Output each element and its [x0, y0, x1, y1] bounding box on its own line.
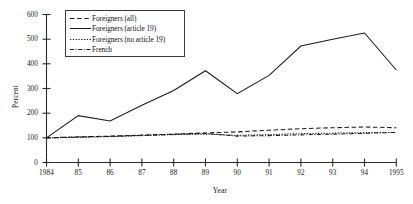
y-tick-label-100: 100	[18, 134, 38, 142]
y-tick-label-200: 200	[18, 109, 38, 117]
line-chart: 600 500 400 300 200 100 0 1984 85 86 87 …	[0, 0, 413, 204]
legend: Foreigners (all) Foreigners (article 19)…	[65, 10, 185, 57]
y-axis-title: Percent	[12, 85, 20, 108]
legend-swatch-dotted-icon	[69, 35, 92, 44]
legend-item-french: French	[69, 45, 181, 56]
y-tick-label-300: 300	[18, 85, 38, 93]
y-tick-label-600: 600	[18, 11, 38, 19]
x-tick-label-88: 88	[160, 169, 188, 177]
y-tick-label-400: 400	[18, 60, 38, 68]
x-tick-label-1984: 1984	[33, 169, 61, 177]
x-tick-label-86: 86	[96, 169, 124, 177]
x-tick-label-87: 87	[128, 169, 156, 177]
y-tick-label-500: 500	[18, 35, 38, 43]
y-tick-label-0: 0	[18, 159, 38, 167]
x-tick-label-90: 90	[223, 169, 251, 177]
legend-label-foreigners-no-article-19: Foreigners (no article 19)	[92, 35, 165, 44]
legend-label-foreigners-article-19: Foreigners (article 19)	[92, 24, 156, 33]
legend-item-foreigners-all: Foreigners (all)	[69, 13, 181, 24]
legend-label-french: French	[92, 45, 112, 54]
legend-label-foreigners-all: Foreigners (all)	[92, 14, 136, 23]
legend-item-foreigners-no-article-19: Foreigners (no article 19)	[69, 34, 181, 45]
x-tick-label-1995: 1995	[382, 169, 410, 177]
x-tick-label-93: 93	[319, 169, 347, 177]
x-axis-title: Year	[190, 186, 250, 195]
legend-swatch-solid-icon	[69, 24, 92, 33]
legend-swatch-dashdot-icon	[69, 45, 92, 54]
x-tick-label-85: 85	[64, 169, 92, 177]
x-tick-label-94: 94	[351, 169, 379, 177]
legend-item-foreigners-article-19: Foreigners (article 19)	[69, 24, 181, 35]
x-tick-label-89: 89	[192, 169, 220, 177]
legend-swatch-dashed-icon	[69, 14, 92, 23]
x-tick-label-92: 92	[287, 169, 315, 177]
x-tick-label-91: 91	[255, 169, 283, 177]
